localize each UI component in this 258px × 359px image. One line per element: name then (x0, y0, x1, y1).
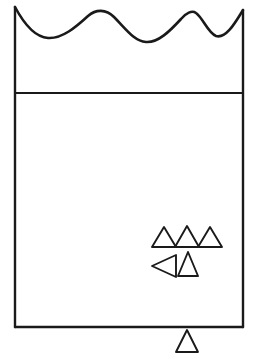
triangle-group (152, 226, 222, 352)
drawing-canvas: Line drawing of a container with wavy to… (0, 0, 258, 359)
line-drawing (0, 0, 258, 359)
triangle-below-container (176, 330, 198, 352)
triangle-top-row-2 (175, 226, 199, 247)
triangle-top-row-1 (152, 227, 176, 247)
triangle-second-row-left-pointing (152, 255, 176, 277)
triangle-top-row-3 (198, 227, 222, 247)
wavy-top-edge (15, 7, 243, 42)
container-group (15, 7, 243, 327)
triangle-second-row-up (178, 252, 198, 276)
